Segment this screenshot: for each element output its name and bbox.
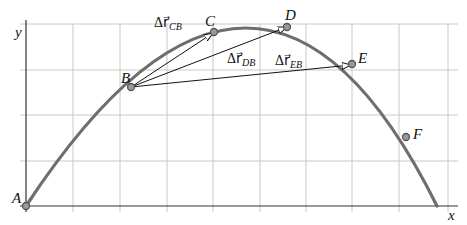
point-d	[284, 24, 291, 31]
point-c-label: C	[205, 13, 216, 29]
point-a-label: A	[11, 190, 22, 206]
vector-db-label: Δr⃗DB	[227, 51, 255, 68]
point-b-label: B	[121, 70, 130, 86]
vector-eb-label: Δr⃗EB	[275, 53, 302, 70]
y-axis-label: y	[13, 24, 22, 40]
vector-cb-subscript: CB	[169, 21, 182, 32]
trajectory-diagram: y x A B C D E F Δr⃗CB Δr⃗DB Δr⃗EB	[0, 0, 467, 225]
point-d-label: D	[284, 7, 296, 23]
point-e-label: E	[357, 50, 367, 66]
point-a	[23, 203, 30, 210]
vector-eb-symbol: Δr⃗	[275, 53, 291, 68]
vector-cb-symbol: Δr⃗	[154, 15, 170, 30]
vector-eb-subscript: EB	[289, 59, 302, 70]
vector-cb-label: Δr⃗CB	[154, 15, 182, 32]
point-c	[211, 29, 218, 36]
point-f	[403, 134, 410, 141]
vector-db-symbol: Δr⃗	[227, 51, 243, 66]
vector-eb	[131, 65, 351, 87]
point-e	[349, 61, 356, 68]
point-f-label: F	[412, 126, 423, 142]
vector-db-subscript: DB	[241, 57, 255, 68]
x-axis-label: x	[447, 207, 455, 223]
